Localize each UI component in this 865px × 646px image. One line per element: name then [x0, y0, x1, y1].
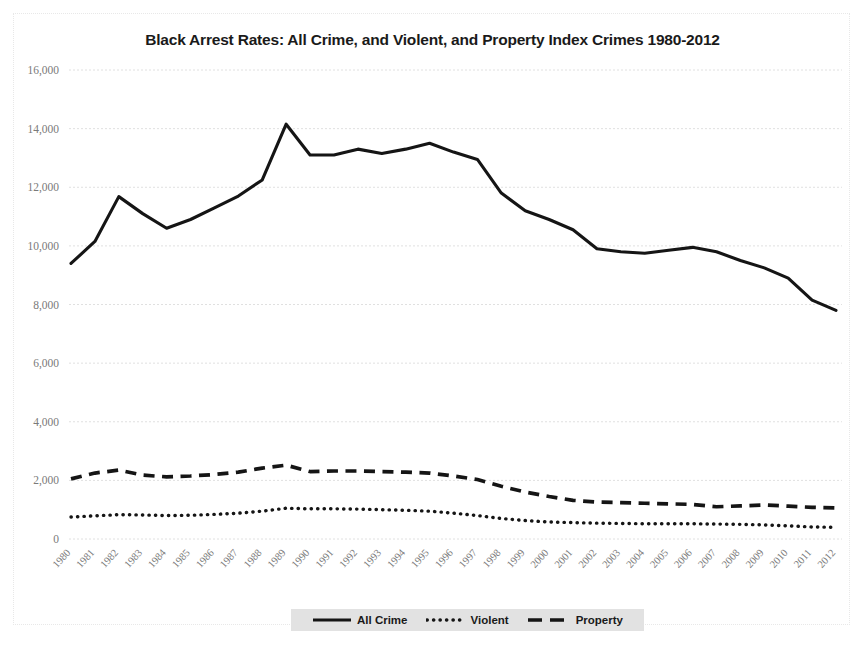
x-axis-tick-label: 1992 — [337, 547, 359, 570]
x-axis-tick-label: 1980 — [50, 547, 72, 570]
chart-plot-area: 02,0004,0006,0008,00010,00012,00014,0001… — [14, 14, 851, 626]
x-axis-tick-label: 1981 — [74, 547, 96, 570]
x-axis-tick-label: 1986 — [194, 547, 216, 570]
x-axis-tick-label: 1984 — [146, 546, 169, 570]
x-axis-tick-label: 2008 — [720, 547, 742, 570]
x-axis-tick-label: 2006 — [672, 547, 694, 570]
legend-label: Property — [576, 614, 623, 626]
legend-label: Violent — [471, 614, 509, 626]
y-axis-tick-label: 8,000 — [33, 299, 59, 312]
x-axis-tick-label: 2000 — [528, 547, 550, 570]
x-axis-tick-label: 2001 — [552, 547, 574, 570]
x-axis-tick-label: 2010 — [767, 547, 789, 570]
x-axis-tick-label: 1985 — [170, 547, 192, 570]
y-axis-tick-label: 10,000 — [27, 240, 59, 253]
chart-container: Black Arrest Rates: All Crime, and Viole… — [13, 13, 850, 625]
data-series-group — [71, 124, 836, 527]
x-axis-tick-label: 1990 — [289, 547, 311, 570]
x-axis-tick-label: 2011 — [792, 547, 814, 570]
x-axis-tick-label: 2003 — [600, 547, 622, 570]
y-axis-tick-label: 16,000 — [27, 64, 59, 77]
legend-label: All Crime — [357, 614, 408, 626]
series-line-all-crime — [71, 124, 836, 310]
legend-item-violent[interactable]: Violent — [417, 614, 518, 626]
chart-legend: All CrimeViolentProperty — [291, 609, 644, 631]
x-axis-tick-label: 1982 — [98, 547, 120, 570]
y-axis-tick-label: 12,000 — [27, 181, 59, 194]
x-axis-tick-label: 2004 — [624, 546, 647, 570]
x-axis-tick-label: 2007 — [696, 547, 718, 570]
x-axis-tick-label: 2009 — [744, 547, 766, 570]
y-axis-tick-label: 2,000 — [33, 474, 59, 487]
y-axis-tick-label: 4,000 — [33, 416, 59, 429]
legend-swatch-solid — [312, 615, 352, 625]
x-axis-tick-label: 1988 — [242, 547, 264, 570]
x-axis-tick-label: 1996 — [433, 547, 455, 570]
legend-swatch-dashed — [527, 615, 571, 625]
x-axis-tick-label: 1998 — [481, 547, 503, 570]
x-axis-tick-label: 1997 — [457, 547, 479, 570]
y-axis-tick-label: 6,000 — [33, 357, 59, 370]
series-line-property — [71, 465, 836, 508]
x-axis-tick-label: 1983 — [122, 547, 144, 570]
gridlines-group — [69, 70, 842, 539]
x-axis-tick-labels: 1980198119821983198419851986198719881989… — [50, 546, 837, 570]
legend-item-all-crime[interactable]: All Crime — [303, 614, 417, 626]
x-axis-tick-label: 2005 — [648, 547, 670, 570]
x-axis-tick-label: 1991 — [313, 547, 335, 570]
x-axis-tick-label: 1993 — [361, 547, 383, 570]
series-line-violent — [71, 508, 836, 527]
legend-swatch-dotted — [426, 615, 466, 625]
x-axis-tick-label: 2002 — [576, 547, 598, 570]
x-axis-tick-label: 2012 — [815, 547, 837, 570]
x-axis-tick-label: 1989 — [265, 547, 287, 570]
y-axis-tick-label: 0 — [53, 533, 59, 545]
x-axis-tick-label: 1999 — [504, 547, 526, 570]
y-axis-tick-label: 14,000 — [27, 123, 59, 136]
x-axis-tick-label: 1995 — [409, 547, 431, 570]
legend-item-property[interactable]: Property — [518, 614, 632, 626]
y-axis-tick-labels: 02,0004,0006,0008,00010,00012,00014,0001… — [27, 64, 59, 545]
x-axis-tick-label: 1987 — [218, 547, 240, 570]
x-axis-tick-label: 1994 — [385, 546, 408, 570]
